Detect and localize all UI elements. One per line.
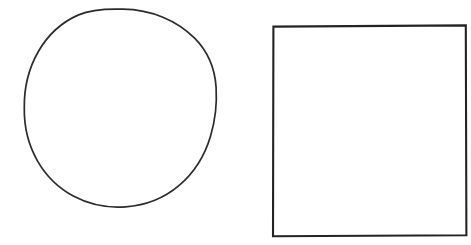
circle-shape	[24, 9, 216, 207]
square-outline-path	[273, 25, 466, 236]
shapes-svg	[0, 0, 471, 245]
circle-outline-path	[24, 9, 216, 207]
figure-canvas: Circle Square	[0, 0, 471, 245]
square-shape	[273, 25, 466, 236]
